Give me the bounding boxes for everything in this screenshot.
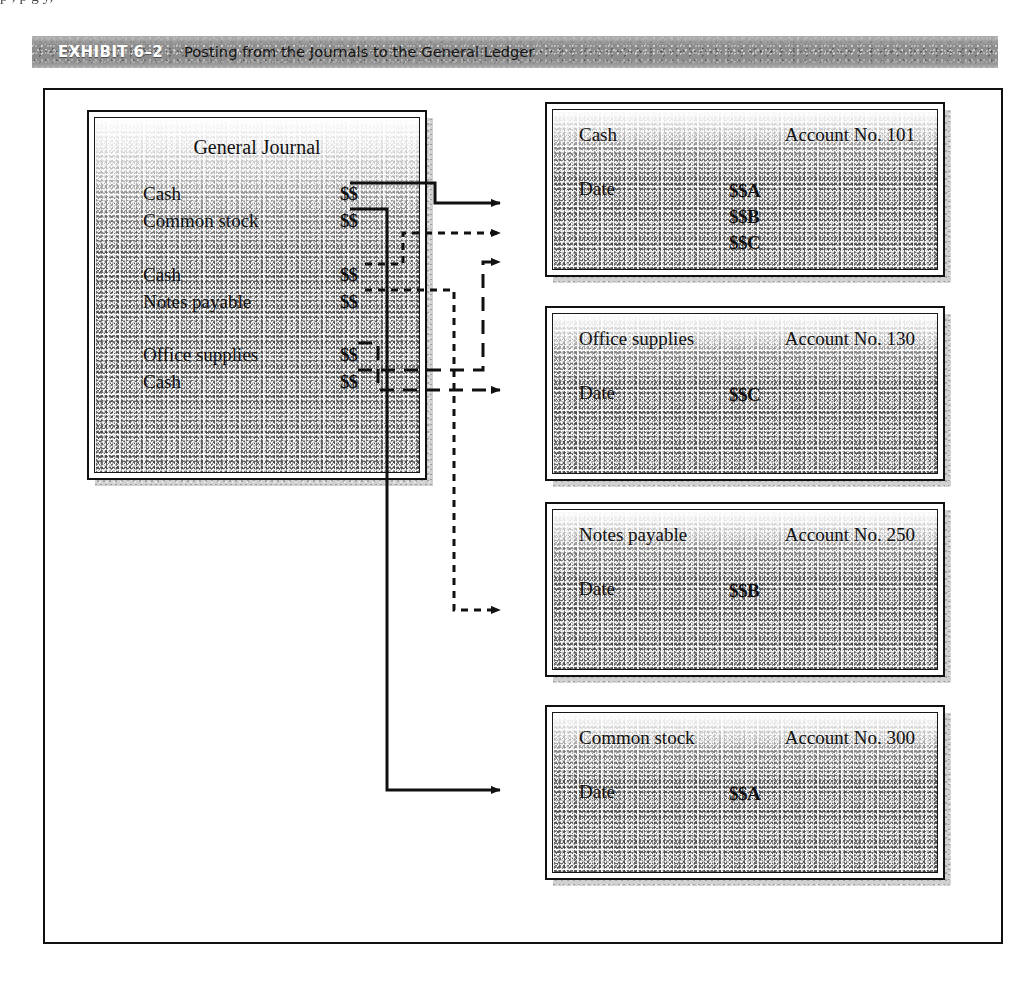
ledger-date-label: Date — [579, 178, 615, 200]
journal-row-notes-payable: Notes payable $$ — [95, 291, 419, 315]
ledger-value: $$C — [729, 230, 760, 256]
ledger-account-notes-payable: Notes payable Account No. 250 Date $$B — [545, 502, 945, 677]
journal-row-office-supplies: Office supplies $$ — [95, 344, 419, 368]
journal-amount: $$ — [340, 210, 357, 232]
journal-account-label: Office supplies — [143, 344, 258, 366]
ledger-account-number: Account No. 300 — [785, 727, 915, 749]
exhibit-number-label: EXHIBIT 6–2 — [58, 43, 163, 61]
ledger-date-label: Date — [579, 781, 615, 803]
exhibit-title-text: Posting from the Journals to the General… — [184, 44, 535, 60]
ledger-sheet: Common stock Account No. 300 Date $$A — [545, 705, 945, 880]
ledger-inner-border: Common stock Account No. 300 Date $$A — [552, 712, 938, 873]
ledger-value: $$B — [729, 578, 759, 604]
ledger-date-label: Date — [579, 578, 615, 600]
ledger-account-common-stock: Common stock Account No. 300 Date $$A — [545, 705, 945, 880]
ledger-header: Cash Account No. 101 — [553, 124, 937, 150]
ledger-value: $$A — [729, 178, 760, 204]
journal-account-label: Cash — [143, 371, 181, 393]
journal-sheet: General Journal Cash $$ Common stock $$ … — [87, 110, 427, 480]
journal-row-cash-2: Cash $$ — [95, 264, 419, 288]
ledger-content: Cash Account No. 101 Date $$A $$B $$C — [553, 110, 937, 269]
journal-row-common-stock: Common stock $$ — [95, 210, 419, 234]
header-top-highlight — [32, 36, 998, 44]
ledger-content: Notes payable Account No. 250 Date $$B — [553, 510, 937, 669]
general-journal-box: General Journal Cash $$ Common stock $$ … — [87, 110, 427, 480]
exhibit-header-bar: EXHIBIT 6–2 Posting from the Journals to… — [32, 36, 998, 68]
ledger-inner-border: Cash Account No. 101 Date $$A $$B $$C — [552, 109, 938, 270]
ledger-account-name: Notes payable — [579, 524, 687, 546]
journal-inner-border: General Journal Cash $$ Common stock $$ … — [94, 117, 420, 473]
journal-amount: $$ — [340, 344, 357, 366]
ledger-sheet: Notes payable Account No. 250 Date $$B — [545, 502, 945, 677]
journal-account-label: Common stock — [143, 210, 259, 232]
ledger-value: $$C — [729, 382, 760, 408]
ledger-values: $$C — [729, 382, 760, 408]
journal-title: General Journal — [95, 136, 419, 159]
journal-amount: $$ — [340, 183, 357, 205]
ledger-account-number: Account No. 101 — [785, 124, 915, 146]
diagram-outer-frame: General Journal Cash $$ Common stock $$ … — [43, 88, 1003, 944]
ledger-content: Common stock Account No. 300 Date $$A — [553, 713, 937, 872]
journal-amount: $$ — [340, 291, 357, 313]
ledger-value: $$A — [729, 781, 760, 807]
journal-amount: $$ — [340, 371, 357, 393]
ledger-account-name: Cash — [579, 124, 617, 146]
journal-content: General Journal Cash $$ Common stock $$ … — [95, 118, 419, 472]
ledger-header: Common stock Account No. 300 — [553, 727, 937, 753]
ledger-account-office-supplies: Office supplies Account No. 130 Date $$C — [545, 306, 945, 481]
ledger-sheet: Cash Account No. 101 Date $$A $$B $$C — [545, 102, 945, 277]
journal-row-cash-1: Cash $$ — [95, 183, 419, 207]
ledger-account-name: Office supplies — [579, 328, 694, 350]
journal-account-label: Notes payable — [143, 291, 251, 313]
ledger-account-cash: Cash Account No. 101 Date $$A $$B $$C — [545, 102, 945, 277]
ledger-value: $$B — [729, 204, 760, 230]
ledger-values: $$A $$B $$C — [729, 178, 760, 256]
ledger-account-number: Account No. 130 — [785, 328, 915, 350]
ledger-values: $$B — [729, 578, 759, 604]
journal-account-label: Cash — [143, 183, 181, 205]
ledger-date-label: Date — [579, 382, 615, 404]
ledger-account-name: Common stock — [579, 727, 695, 749]
ledger-values: $$A — [729, 781, 760, 807]
ledger-sheet: Office supplies Account No. 130 Date $$C — [545, 306, 945, 481]
ledger-header: Office supplies Account No. 130 — [553, 328, 937, 354]
journal-row-cash-3: Cash $$ — [95, 371, 419, 395]
ledger-content: Office supplies Account No. 130 Date $$C — [553, 314, 937, 473]
ledger-inner-border: Notes payable Account No. 250 Date $$B — [552, 509, 938, 670]
ledger-inner-border: Office supplies Account No. 130 Date $$C — [552, 313, 938, 474]
header-bottom-shade — [32, 61, 998, 68]
page-top-text-fragment: p , p g y, — [0, 0, 1030, 10]
ledger-header: Notes payable Account No. 250 — [553, 524, 937, 550]
journal-account-label: Cash — [143, 264, 181, 286]
journal-amount: $$ — [340, 264, 357, 286]
ledger-account-number: Account No. 250 — [785, 524, 915, 546]
